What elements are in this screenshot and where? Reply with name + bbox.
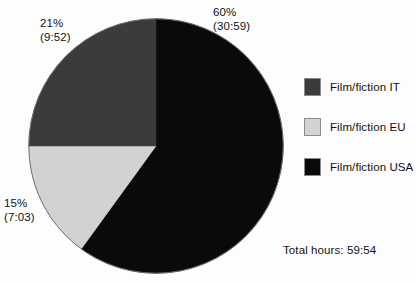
slice-label-it: 21% (9:52) [40, 16, 71, 44]
legend-label-film-fiction-it: Film/fiction IT [330, 81, 400, 94]
slice-label-it-percent: 21% [40, 16, 71, 30]
legend-item-film-fiction-eu[interactable]: Film/fiction EU [304, 118, 416, 136]
slice-label-eu-duration: (7:03) [4, 210, 35, 224]
slice-label-eu-percent: 15% [4, 196, 35, 210]
chart-legend: Film/fiction ITFilm/fiction EUFilm/ficti… [304, 78, 416, 176]
legend-swatch-film-fiction-it [304, 78, 321, 96]
legend-item-film-fiction-it[interactable]: Film/fiction IT [304, 78, 416, 96]
slice-label-usa: 60% (30:59) [213, 5, 250, 33]
pie-chart-figure: 60% (30:59) 21% (9:52) 15% (7:03) Film/f… [0, 0, 416, 283]
legend-swatch-film-fiction-eu [304, 118, 321, 136]
slice-label-usa-duration: (30:59) [213, 19, 250, 33]
slice-label-eu: 15% (7:03) [4, 196, 35, 224]
pie-chart-graphic [28, 18, 284, 274]
total-hours-label: Total hours: 59:54 [283, 243, 376, 257]
legend-swatch-film-fiction-usa [304, 158, 321, 176]
slice-label-it-duration: (9:52) [40, 30, 71, 44]
pie-slice-group [29, 19, 283, 273]
legend-label-film-fiction-usa: Film/fiction USA [330, 161, 413, 174]
slice-label-usa-percent: 60% [213, 5, 250, 19]
pie-svg [28, 18, 284, 274]
legend-label-film-fiction-eu: Film/fiction EU [330, 121, 406, 134]
legend-item-film-fiction-usa[interactable]: Film/fiction USA [304, 158, 416, 176]
